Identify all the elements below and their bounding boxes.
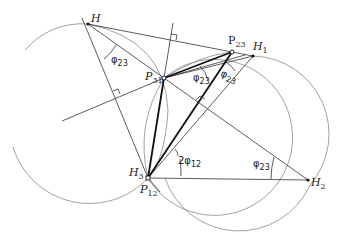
angle-arc-h2 xyxy=(271,157,274,179)
geometry-diagram: H P31 P23 H1 H2 H3 P12 φ23 φ23 φ23 φ23 2… xyxy=(0,0,340,243)
angle-label-p23: φ23 xyxy=(218,68,239,87)
label-h: H xyxy=(90,12,101,25)
left-circle-arc xyxy=(25,24,88,50)
arc-h-p12 xyxy=(88,24,168,178)
right-circle xyxy=(148,59,293,215)
labels: H P31 P23 H1 H2 H3 P12 φ23 φ23 φ23 φ23 2… xyxy=(90,12,326,198)
point-h2 xyxy=(306,178,309,181)
label-h1: H1 xyxy=(252,40,268,55)
line-bisector-left-ext xyxy=(164,55,245,78)
point-p31 xyxy=(162,76,166,80)
angle-label-h: φ23 xyxy=(111,54,128,68)
right-angle-marker-left xyxy=(113,89,120,94)
label-p31: P31 xyxy=(144,70,163,85)
right-angle-marker-top xyxy=(171,34,177,40)
angle-label-p31: φ23 xyxy=(193,72,210,86)
label-p12: P12 xyxy=(139,183,158,198)
point-h1 xyxy=(251,54,254,57)
point-h xyxy=(86,22,89,25)
label-h3: H3 xyxy=(128,166,144,181)
line-h-p23 xyxy=(88,24,232,52)
angle-label-h2: φ23 xyxy=(253,158,270,172)
line-h-h3 xyxy=(82,18,148,178)
line-h-p31 xyxy=(88,24,164,78)
point-p23 xyxy=(230,50,234,54)
line-p12-h2 xyxy=(148,178,308,180)
line-bisector-left xyxy=(62,78,164,121)
left-circle-arc-bottom xyxy=(13,147,148,203)
label-p23: P23 xyxy=(228,34,246,49)
right-circle-top-arc xyxy=(165,56,329,231)
angle-label-p12: 2φ12 xyxy=(178,155,201,169)
circles xyxy=(13,24,329,231)
point-p12 xyxy=(146,176,150,180)
label-h2: H2 xyxy=(310,176,326,191)
line-top-vertical xyxy=(164,23,173,78)
